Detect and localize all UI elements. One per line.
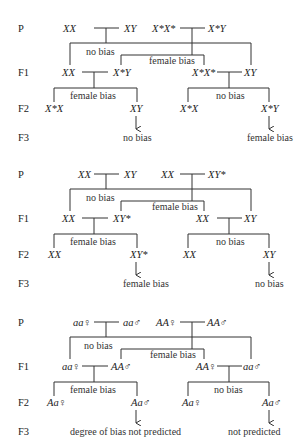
f3-right-result: female bias — [247, 132, 293, 143]
row-label-f3: F3 — [18, 426, 29, 437]
f1-right-note: no bias — [214, 384, 243, 395]
row-label-f3: F3 — [18, 132, 29, 143]
p-right-note: female bias — [152, 201, 198, 212]
p-left-male: aa♂ — [123, 317, 141, 328]
p-left-note: no bias — [86, 192, 115, 203]
row-label-p: P — [18, 23, 24, 34]
row-label-f1: F1 — [18, 361, 29, 372]
f1-left-note: female bias — [70, 236, 116, 247]
p-right-male: AA♂ — [206, 317, 228, 328]
row-label-f2: F2 — [18, 103, 29, 114]
f1-left-female: XX — [61, 67, 75, 78]
f1-left-male: XY* — [112, 213, 131, 224]
f3-left-result: female bias — [123, 278, 169, 289]
row-label-f3: F3 — [18, 278, 29, 289]
f1-right-female: XX — [195, 213, 209, 224]
p-left-female: aa♀ — [73, 317, 91, 328]
f1-right-note: no bias — [216, 90, 245, 101]
f1-left-male: AA♂ — [110, 361, 132, 372]
p-right-note: female bias — [150, 349, 196, 360]
f2-right-female: Aa♀ — [181, 397, 202, 408]
f2-right-male: XY — [262, 249, 276, 260]
row-label-f1: F1 — [18, 67, 29, 78]
f2-left-male: Aa♂ — [130, 397, 151, 408]
p-right-male: X*Y — [207, 23, 227, 34]
row-label-f2: F2 — [18, 249, 29, 260]
inheritance-diagrams: P F1 F2 F3 XX XY X*X* X*Y no bias female… — [0, 0, 302, 440]
f2-right-female: XX — [182, 249, 196, 260]
f1-right-male: XY — [243, 213, 257, 224]
f3-left-result: degree of bias not predicted — [70, 426, 181, 437]
f1-right-female: AA♀ — [195, 361, 217, 372]
row-label-f1: F1 — [18, 213, 29, 224]
p-right-male: XY* — [207, 169, 226, 180]
p-right-note: female bias — [149, 55, 195, 66]
f1-right-note: no bias — [216, 236, 245, 247]
f2-right-female: X*X — [179, 103, 199, 114]
f1-right-male: XY — [243, 67, 257, 78]
f1-left-female: XX — [61, 213, 75, 224]
f2-left-male: XY — [129, 103, 143, 114]
diagram-y-linked: P F1 F2 F3 XX XY XX XY* no bias female b… — [18, 169, 284, 289]
f1-right-male: aa♂ — [243, 361, 261, 372]
p-left-male: XY — [123, 169, 137, 180]
p-right-female: X*X* — [151, 23, 176, 34]
f1-left-male: X*Y — [112, 67, 132, 78]
f1-right-female: X*X* — [191, 67, 216, 78]
f2-left-female: Aa♀ — [46, 397, 67, 408]
row-label-p: P — [18, 317, 24, 328]
p-left-male: XY — [123, 23, 137, 34]
f3-left-result: no bias — [123, 132, 152, 143]
f1-left-note: female bias — [70, 90, 116, 101]
f2-left-male: XY* — [129, 249, 148, 260]
diagram-x-linked: P F1 F2 F3 XX XY X*X* X*Y no bias female… — [18, 23, 293, 143]
p-left-note: no bias — [86, 46, 115, 57]
f3-right-result: not predicted — [228, 426, 280, 437]
row-label-f2: F2 — [18, 397, 29, 408]
f1-left-note: female bias — [70, 384, 116, 395]
f3-right-result: no bias — [255, 278, 284, 289]
f2-right-male: Aa♂ — [261, 397, 282, 408]
p-left-female: XX — [77, 169, 91, 180]
p-left-female: XX — [62, 23, 76, 34]
p-right-female: XX — [160, 169, 174, 180]
p-right-female: AA♀ — [155, 317, 177, 328]
f1-left-female: aa♀ — [62, 361, 80, 372]
f2-left-female: X*X — [44, 103, 64, 114]
f2-left-female: XX — [47, 249, 61, 260]
diagram-autosomal: P F1 F2 F3 aa♀ aa♂ AA♀ AA♂ no bias femal… — [18, 317, 282, 437]
p-left-note: no bias — [84, 340, 113, 351]
row-label-p: P — [18, 169, 24, 180]
f2-right-male: X*Y — [260, 103, 280, 114]
